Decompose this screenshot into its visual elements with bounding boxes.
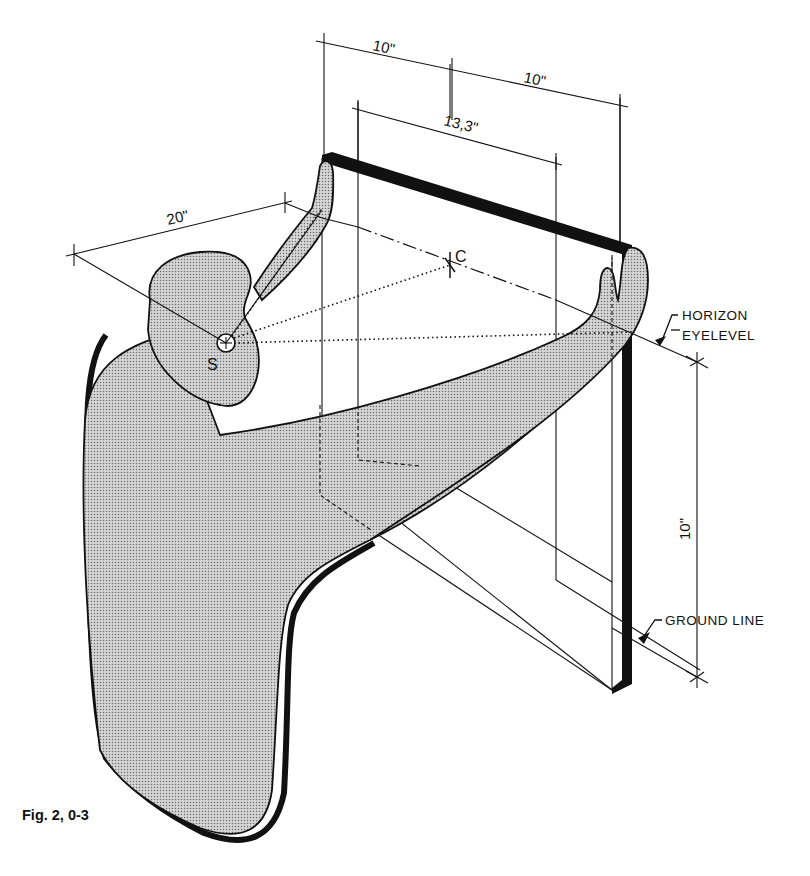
station-point-label: S — [207, 356, 218, 373]
picture-plane-top-edge — [322, 152, 632, 256]
perspective-diagram: 10" 10" 13,3" 20" 10" S C HORIZON EYELEV… — [0, 0, 810, 876]
observer-figure — [83, 161, 648, 840]
center-of-vision-mark — [445, 252, 455, 278]
dim-eye-height: 10" — [676, 518, 693, 540]
dim-top-left: 10" — [371, 36, 396, 57]
ground-line-callout — [638, 620, 662, 644]
center-of-vision-label: C — [455, 248, 467, 265]
dim-viewing-distance: 20" — [165, 206, 190, 228]
horizon-callout — [655, 315, 680, 346]
eyelevel-label: EYELEVEL — [682, 328, 755, 343]
horizon-label: HORIZON — [682, 308, 748, 323]
figure-caption: Fig. 2, 0-3 — [22, 807, 89, 823]
dim-top-right: 10" — [522, 68, 547, 89]
dim-inner-width: 13,3" — [442, 111, 480, 136]
ground-line-label: GROUND LINE — [665, 613, 764, 628]
left-arm — [254, 161, 333, 300]
